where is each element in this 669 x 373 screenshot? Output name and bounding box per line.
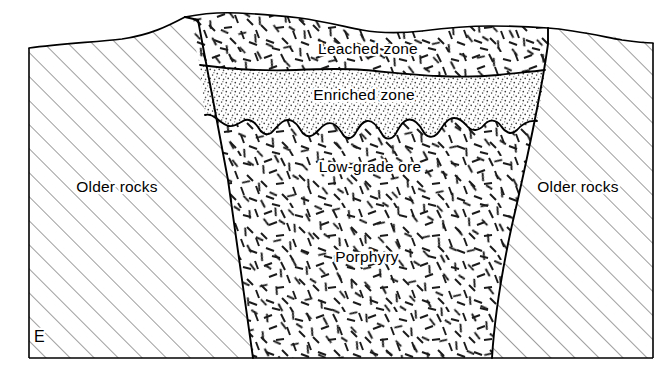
label-low-grade-ore: Low-grade ore (319, 158, 422, 175)
label-panel-letter: E (34, 328, 45, 345)
label-enriched-zone: Enriched zone (313, 86, 415, 103)
label-leached-zone: Leached zone (318, 40, 418, 57)
geologic-cross-section-figure: Leached zone Enriched zone Low-grade ore… (0, 0, 669, 373)
label-older-rocks-right: Older rocks (537, 178, 618, 195)
label-older-rocks-left: Older rocks (76, 178, 157, 195)
cross-section-diagram: Leached zone Enriched zone Low-grade ore… (0, 0, 669, 373)
label-porphyry: Porphyry (335, 248, 399, 265)
